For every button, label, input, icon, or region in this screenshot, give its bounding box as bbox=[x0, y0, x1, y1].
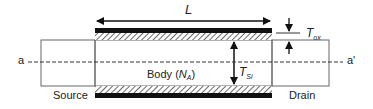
source-region bbox=[41, 40, 95, 86]
source-label: Source bbox=[53, 90, 88, 101]
body-label: Body (NA) bbox=[147, 69, 195, 80]
bottom-gate bbox=[95, 93, 272, 98]
cut-end-label: a' bbox=[347, 55, 355, 66]
tsi-label: TSi bbox=[239, 66, 253, 78]
top-gate bbox=[95, 28, 272, 33]
drain-label: Drain bbox=[289, 90, 315, 101]
body-label-suffix: ) bbox=[191, 68, 195, 80]
length-label: L bbox=[185, 3, 192, 16]
cut-start-label: a bbox=[18, 55, 24, 66]
tox-label: Tox bbox=[306, 27, 321, 39]
body-doping-main: N bbox=[179, 68, 187, 80]
drain-region bbox=[272, 40, 329, 86]
tox-label-sub: ox bbox=[313, 34, 320, 41]
body-label-prefix: Body ( bbox=[147, 68, 179, 80]
body-doping-sub: A bbox=[187, 74, 192, 81]
bottom-gate-oxide bbox=[95, 86, 272, 93]
top-gate-oxide bbox=[95, 33, 272, 40]
tsi-label-sub: Si bbox=[246, 73, 252, 80]
